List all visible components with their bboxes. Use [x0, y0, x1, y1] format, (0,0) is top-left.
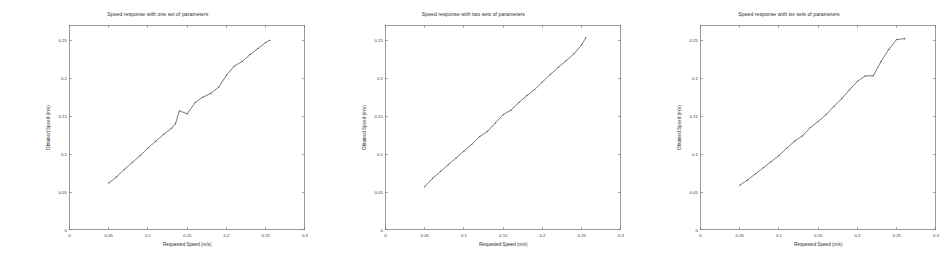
- data-point-marker: [873, 75, 874, 76]
- data-point-marker: [542, 81, 543, 82]
- data-point-marker: [155, 141, 156, 142]
- x-tick-label: 0.05: [736, 233, 745, 238]
- data-point-marker: [834, 106, 835, 107]
- y-axis-label: Obtained Speed (m/s): [46, 105, 51, 150]
- data-point-marker: [487, 131, 488, 132]
- data-point-marker: [171, 128, 172, 129]
- chart-panel-six-sets: Speed response with six sets of paramete…: [631, 0, 947, 269]
- data-point-marker: [175, 123, 176, 124]
- x-tick-label: 0.3: [302, 233, 309, 238]
- x-tick-label: 0.15: [183, 233, 192, 238]
- y-tick-label: 0.15: [690, 114, 699, 119]
- plot-canvas-two-sets: 00.050.10.150.20.250.300.050.10.150.20.2…: [316, 0, 632, 269]
- y-tick-label: 0.05: [58, 190, 67, 195]
- x-tick-label: 0.25: [577, 233, 586, 238]
- chart-panel-two-sets: Speed response with two sets of paramete…: [316, 0, 632, 269]
- data-point-marker: [210, 93, 211, 94]
- x-tick-label: 0: [384, 233, 387, 238]
- y-tick-label: 0.2: [692, 76, 699, 81]
- data-point-marker: [896, 39, 897, 40]
- data-point-marker: [432, 178, 433, 179]
- x-tick-label: 0.25: [893, 233, 902, 238]
- data-point-marker: [502, 114, 503, 115]
- x-tick-label: 0.3: [618, 233, 625, 238]
- data-point-marker: [447, 164, 448, 165]
- data-point-marker: [841, 98, 842, 99]
- data-point-marker: [881, 61, 882, 62]
- data-series-line: [740, 39, 905, 186]
- data-point-marker: [565, 60, 566, 61]
- x-tick-label: 0.2: [539, 233, 546, 238]
- data-point-marker: [557, 67, 558, 68]
- data-point-marker: [249, 54, 250, 55]
- x-tick-label: 0.1: [145, 233, 152, 238]
- data-point-marker: [585, 37, 586, 38]
- data-point-marker: [573, 53, 574, 54]
- data-point-marker: [187, 113, 188, 114]
- data-point-marker: [494, 122, 495, 123]
- y-tick-label: 0.2: [376, 76, 383, 81]
- data-point-marker: [739, 185, 740, 186]
- data-point-marker: [549, 74, 550, 75]
- axes-box: [701, 25, 936, 230]
- x-tick-label: 0.2: [855, 233, 862, 238]
- data-point-marker: [195, 102, 196, 103]
- data-point-marker: [202, 97, 203, 98]
- data-point-marker: [763, 167, 764, 168]
- data-point-marker: [424, 186, 425, 187]
- plot-canvas-one-set: 00.050.10.150.20.250.300.050.10.150.20.2…: [0, 0, 316, 269]
- data-point-marker: [857, 81, 858, 82]
- data-point-marker: [163, 134, 164, 135]
- data-point-marker: [826, 114, 827, 115]
- x-tick-label: 0.1: [461, 233, 468, 238]
- y-tick-label: 0.05: [374, 190, 383, 195]
- data-point-marker: [526, 95, 527, 96]
- y-tick-label: 0: [65, 228, 68, 233]
- figure-panel-row: Speed response with one set of parameter…: [0, 0, 947, 269]
- x-tick-label: 0.15: [499, 233, 508, 238]
- data-point-marker: [479, 136, 480, 137]
- x-tick-label: 0.05: [104, 233, 113, 238]
- y-tick-label: 0.1: [61, 152, 68, 157]
- data-point-marker: [147, 147, 148, 148]
- x-tick-label: 0.1: [776, 233, 783, 238]
- y-tick-label: 0.1: [692, 152, 699, 157]
- y-tick-label: 0.15: [374, 114, 383, 119]
- data-point-marker: [218, 87, 219, 88]
- x-tick-label: 0.05: [420, 233, 429, 238]
- data-point-marker: [132, 162, 133, 163]
- data-point-marker: [116, 176, 117, 177]
- x-tick-label: 0.3: [933, 233, 940, 238]
- data-point-marker: [849, 89, 850, 90]
- axes-box: [385, 25, 620, 230]
- data-series-line: [109, 40, 270, 183]
- data-point-marker: [865, 75, 866, 76]
- y-tick-label: 0.1: [376, 152, 383, 157]
- data-point-marker: [534, 89, 535, 90]
- x-tick-label: 0.15: [814, 233, 823, 238]
- y-tick-label: 0.2: [61, 76, 68, 81]
- data-point-marker: [124, 169, 125, 170]
- data-point-marker: [179, 110, 180, 111]
- data-point-marker: [755, 173, 756, 174]
- y-tick-label: 0.25: [58, 38, 67, 43]
- data-series-line: [424, 38, 585, 187]
- data-point-marker: [747, 179, 748, 180]
- x-axis-label: Requested Speed (m/s): [163, 242, 212, 247]
- chart-panel-one-set: Speed response with one set of parameter…: [0, 0, 316, 269]
- y-tick-label: 0.05: [690, 190, 699, 195]
- data-point-marker: [510, 109, 511, 110]
- y-tick-label: 0.25: [690, 38, 699, 43]
- data-point-marker: [108, 182, 109, 183]
- x-tick-label: 0: [68, 233, 71, 238]
- data-point-marker: [471, 144, 472, 145]
- data-point-marker: [779, 155, 780, 156]
- data-point-marker: [257, 48, 258, 49]
- data-point-marker: [234, 65, 235, 66]
- axes-box: [69, 25, 304, 230]
- data-point-marker: [794, 141, 795, 142]
- x-tick-label: 0.2: [223, 233, 230, 238]
- y-tick-label: 0: [696, 228, 699, 233]
- data-point-marker: [226, 75, 227, 76]
- y-tick-label: 0: [380, 228, 383, 233]
